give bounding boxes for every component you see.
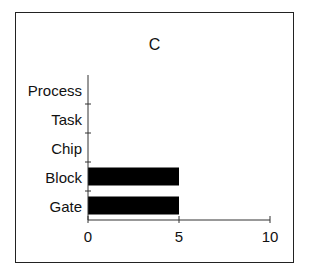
y-tick-label: Task <box>51 111 82 128</box>
y-tick-label: Block <box>45 169 82 186</box>
x-tick-label: 10 <box>262 228 279 245</box>
bar-chart: ProcessTaskChipBlockGate0510 <box>0 0 309 277</box>
y-tick-label: Process <box>28 82 82 99</box>
x-tick-label: 0 <box>84 228 92 245</box>
bar-block <box>88 168 179 186</box>
y-tick-label: Chip <box>51 140 82 157</box>
y-tick-label: Gate <box>49 198 82 215</box>
bar-gate <box>88 197 179 215</box>
x-tick-label: 5 <box>175 228 183 245</box>
